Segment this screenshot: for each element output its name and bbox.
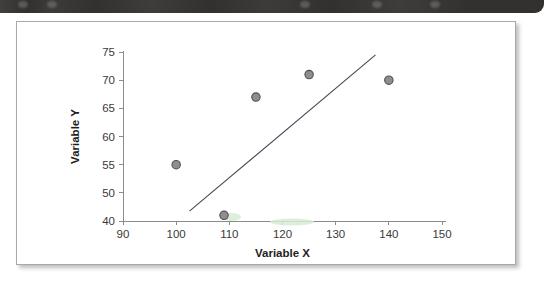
data-point (305, 70, 313, 78)
banner-smudge (18, 1, 28, 8)
banner-smudge (372, 1, 382, 8)
y-tick-label: 70 (102, 74, 115, 86)
banner-smudge (300, 1, 310, 8)
banner-texture (0, 0, 544, 13)
chart-panel: 40505560657075 90100110120130140150 Vari… (16, 21, 516, 265)
y-axis-ticks: 40505560657075 (102, 46, 123, 227)
y-tick-label: 75 (102, 46, 115, 58)
scatter-plot: 40505560657075 90100110120130140150 Vari… (17, 22, 517, 266)
y-tick-label: 65 (102, 102, 115, 114)
trend-line (189, 55, 375, 211)
screenshot-root: 40505560657075 90100110120130140150 Vari… (0, 0, 544, 291)
x-tick-label: 100 (167, 228, 186, 240)
plot-canvas: 40505560657075 90100110120130140150 Vari… (17, 22, 517, 266)
x-tick-label: 130 (326, 228, 345, 240)
x-tick-label: 110 (220, 228, 238, 240)
x-tick-label: 140 (379, 228, 398, 240)
y-tick-label: 50 (102, 187, 115, 199)
data-point (385, 76, 393, 84)
data-point (252, 93, 260, 101)
data-point-group (172, 70, 393, 219)
x-tick-label: 90 (117, 228, 130, 240)
data-point (220, 211, 228, 219)
top-banner-strip (0, 0, 544, 13)
y-axis-title: Variable Y (69, 109, 81, 164)
data-point (172, 160, 180, 168)
y-tick-label: 55 (102, 159, 115, 171)
x-tick-label: 150 (432, 228, 451, 240)
y-tick-label: 40 (102, 215, 115, 227)
banner-smudge (47, 1, 57, 8)
x-tick-label: 120 (273, 228, 292, 240)
scan-artifact (270, 219, 314, 226)
x-axis-title: Variable X (255, 247, 310, 259)
banner-smudge (430, 1, 440, 8)
y-tick-label: 60 (102, 131, 115, 143)
